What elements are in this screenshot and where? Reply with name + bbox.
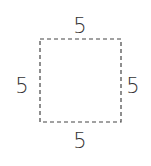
label-top: 5 [73,14,86,38]
label-bottom: 5 [73,129,86,153]
label-right: 5 [126,74,139,98]
dashed-square [40,39,121,122]
label-left: 5 [15,74,28,98]
square-diagram: 5 5 5 5 [0,0,151,166]
